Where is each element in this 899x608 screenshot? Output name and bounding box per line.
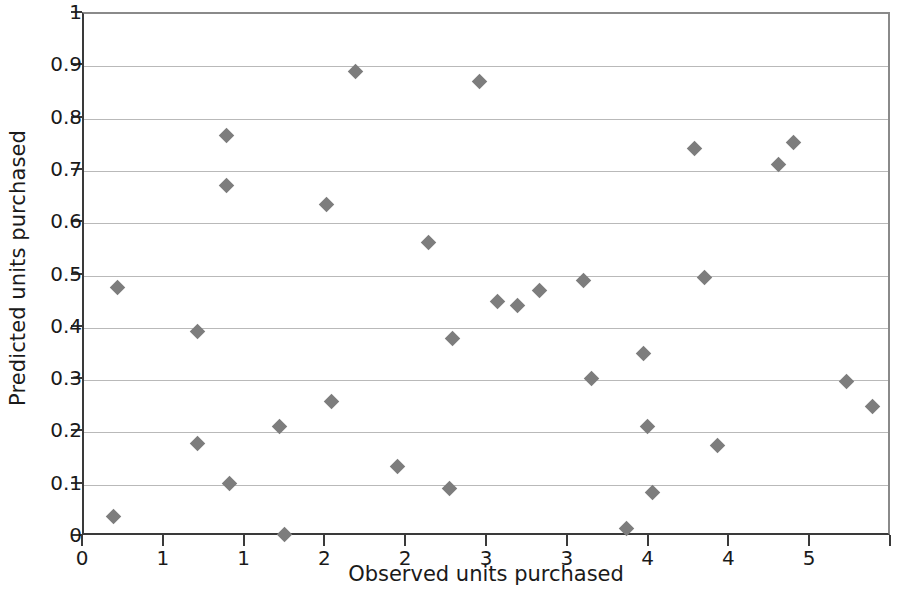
y-tick-label: 0.6 [38,211,82,231]
data-point [105,508,121,524]
gridline-horizontal [84,485,888,486]
data-point [839,373,855,389]
data-point [110,280,126,296]
data-point [218,178,234,194]
data-point [786,134,802,150]
gridline-horizontal [84,276,888,277]
x-tick-mark [485,535,487,546]
y-tick-label: 0.5 [38,264,82,284]
y-axis-ticks: 00.10.20.30.40.50.60.70.80.91 [20,0,82,608]
gridline-horizontal [84,380,888,381]
gridline-horizontal [84,171,888,172]
data-point [635,346,651,362]
plot-area [82,12,890,535]
data-point [584,371,600,387]
x-tick-mark [727,535,729,546]
y-tick-label: 0.1 [38,473,82,493]
data-point [390,459,406,475]
data-point [218,128,234,144]
data-point [865,398,881,414]
data-point [697,270,713,286]
data-point [619,520,635,536]
data-point [445,330,461,346]
x-tick-mark [808,535,810,546]
gridline-horizontal [84,328,888,329]
y-tick-label: 0.9 [38,54,82,74]
x-tick-mark [162,535,164,546]
data-point [509,298,525,314]
y-tick-label: 0.7 [38,159,82,179]
y-tick-label: 0.2 [38,420,82,440]
x-tick-mark [404,535,406,546]
data-point [222,475,238,491]
data-point [472,74,488,90]
x-axis-title: Observed units purchased [82,562,890,586]
data-point [532,282,548,298]
y-tick-label: 0.3 [38,368,82,388]
x-tick-mark [566,535,568,546]
gridline-horizontal [84,66,888,67]
data-point [710,438,726,454]
data-point [319,197,335,213]
gridline-horizontal [84,223,888,224]
x-tick-mark [647,535,649,546]
data-point [189,324,205,340]
data-point [490,293,506,309]
data-point [645,485,661,501]
data-point [189,436,205,452]
y-tick-label: 1 [38,2,82,22]
gridline-horizontal [84,432,888,433]
data-point [441,481,457,497]
gridline-horizontal [84,119,888,120]
x-tick-mark [323,535,325,546]
data-point [323,394,339,410]
data-point [687,141,703,157]
y-tick-label: 0.4 [38,316,82,336]
scatter-chart-figure: Predicted units purchased 00.10.20.30.40… [0,0,899,608]
plot-inner [84,14,888,533]
y-tick-label: 0.8 [38,107,82,127]
x-tick-mark [243,535,245,546]
x-tick-mark [81,535,83,546]
y-tick-label: 0 [38,525,82,545]
x-tick-mark [889,535,891,546]
data-point [420,234,436,250]
